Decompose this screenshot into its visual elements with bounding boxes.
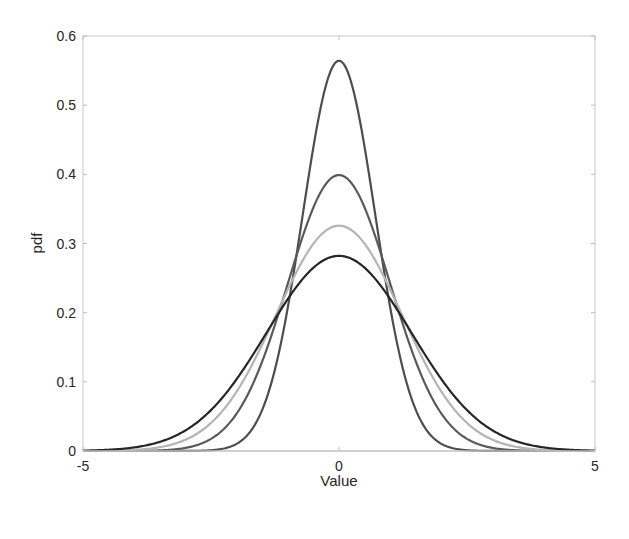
y-tick-label: 0.4 xyxy=(57,166,77,182)
y-tick-label: 0.2 xyxy=(57,305,77,321)
x-tick-label: 5 xyxy=(591,458,599,474)
x-tick-label: -5 xyxy=(77,458,90,474)
y-tick-label: 0.3 xyxy=(57,236,77,252)
y-tick-label: 0.6 xyxy=(57,28,77,44)
chart: 00.10.20.30.40.50.6 -505 Value pdf xyxy=(0,0,629,539)
y-tick-label: 0 xyxy=(68,443,76,459)
axes-background xyxy=(83,36,595,451)
y-axis-label: pdf xyxy=(28,232,45,254)
y-tick-label: 0.5 xyxy=(57,97,77,113)
y-tick-label: 0.1 xyxy=(57,374,77,390)
x-axis-label: Value xyxy=(320,472,357,489)
